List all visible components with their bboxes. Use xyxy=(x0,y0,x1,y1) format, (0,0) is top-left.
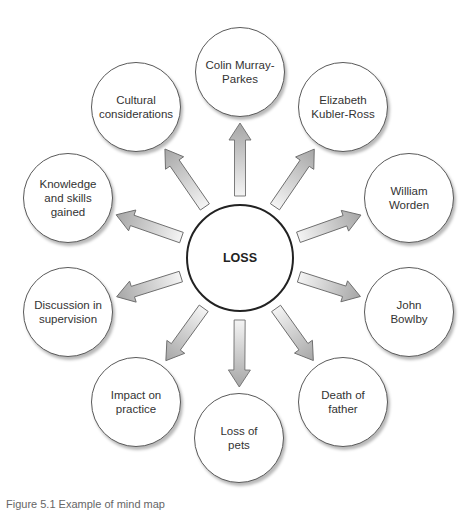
figure-caption: Figure 5.1 Example of mind map xyxy=(6,498,165,510)
node-impact-on-practice: Impact onpractice xyxy=(91,357,181,447)
node-label: Knowledgeand skillsgained xyxy=(34,177,103,219)
node-elizabeth-kubler-ross: ElizabethKubler-Ross xyxy=(298,62,388,152)
node-discussion-in-supervision: Discussion insupervision xyxy=(23,267,113,357)
node-label: WilliamWorden xyxy=(383,184,435,212)
arrow-icon xyxy=(156,143,214,213)
node-label: ElizabethKubler-Ross xyxy=(305,93,380,121)
node-colin-murray-parkes: Colin Murray-Parkes xyxy=(195,27,285,117)
arrow-icon xyxy=(266,143,323,213)
node-john-bowlby: JohnBowlby xyxy=(364,267,454,357)
arrow-icon xyxy=(267,302,322,367)
center-label: LOSS xyxy=(223,251,257,265)
arrow-icon xyxy=(157,302,213,367)
node-label: Culturalconsiderations xyxy=(93,93,179,121)
node-knowledge-and-skills-gained: Knowledgeand skillsgained xyxy=(23,153,113,243)
node-label: Colin Murray-Parkes xyxy=(199,58,280,86)
node-label: JohnBowlby xyxy=(384,298,433,326)
arrow-icon xyxy=(113,266,184,307)
arrow-icon xyxy=(295,205,365,248)
arrow-icon xyxy=(113,204,186,248)
arrow-icon xyxy=(229,123,251,196)
arrow-icon xyxy=(228,320,250,387)
node-label: Death offather xyxy=(315,388,370,416)
node-label: Loss ofpets xyxy=(214,424,263,452)
center-node-loss: LOSS xyxy=(186,204,294,312)
node-label: Impact onpractice xyxy=(105,388,168,416)
node-loss-of-pets: Loss ofpets xyxy=(194,393,284,483)
arrow-icon xyxy=(296,266,364,307)
node-death-of-father: Death offather xyxy=(298,357,388,447)
node-william-worden: WilliamWorden xyxy=(364,153,454,243)
node-cultural-considerations: Culturalconsiderations xyxy=(91,62,181,152)
node-label: Discussion insupervision xyxy=(28,298,108,326)
